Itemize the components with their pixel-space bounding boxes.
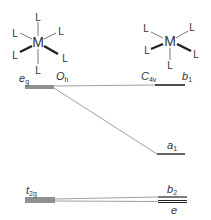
metal-label: M [32,34,44,50]
ligand-label: L [144,45,150,56]
correlation-lines [54,85,158,202]
ligand-label: L [35,65,41,76]
orbital-diagram: M L L L L L L Oh M L L L L L C4v eg t2g … [0,0,211,220]
symmetry-label-oh: Oh [56,70,69,83]
a1-label: a1 [167,139,177,152]
symmetry-label-c4v: C4v [141,70,157,83]
ligand-label: L [62,53,68,64]
b1-label: b1 [182,70,192,83]
ligand-label: L [167,60,173,71]
metal-label: M [164,33,176,49]
square-pyramidal-complex: M L L L L L C4v [141,22,199,83]
ligand-label: L [12,28,18,39]
e-level: e [158,201,187,217]
b1-level: b1 [155,70,192,85]
ligand-label: L [35,12,41,23]
b2-label: b2 [167,183,177,196]
ligand-label: L [189,22,195,33]
a1-level: a1 [157,139,185,154]
t2g-label: t2g [26,184,37,198]
b2-level: b2 [158,183,187,197]
e-label: e [171,204,177,216]
ligand-label: L [58,26,64,37]
t2g-level: t2g [25,184,55,202]
ligand-label: L [143,23,149,34]
ligand-label: L [193,49,199,60]
ligand-label: L [12,50,18,61]
eg-label: eg [19,72,29,86]
